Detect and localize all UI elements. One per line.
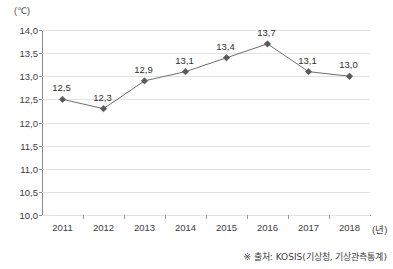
data-point-label: 13,4	[216, 41, 235, 52]
x-axis-tick-mark	[124, 215, 125, 219]
y-axis-unit-label: (℃)	[14, 6, 30, 16]
x-axis-tick-label: 2013	[134, 222, 155, 233]
x-axis-tick-mark	[247, 215, 248, 219]
x-axis-tick-mark	[83, 215, 84, 219]
data-point-label: 13,7	[257, 27, 276, 38]
y-axis-tick-labels: 14,013,513,012,512,011,511,010,510,0	[0, 30, 38, 215]
x-axis-tick-mark	[288, 215, 289, 219]
x-axis-tick-label: 2011	[52, 222, 72, 233]
y-axis-tick-mark	[39, 30, 42, 31]
y-axis-tick-mark	[39, 215, 42, 216]
y-axis-tick-label: 11,0	[20, 163, 38, 174]
y-axis-tick-label: 13,0	[20, 71, 39, 82]
data-point-label: 12,5	[52, 82, 71, 93]
y-axis-tick-label: 11,5	[20, 140, 38, 151]
plot-area	[42, 30, 370, 215]
y-axis-tick-label: 14,0	[20, 25, 39, 36]
y-axis-tick-mark	[39, 76, 42, 77]
gridline	[42, 53, 370, 54]
gridline	[42, 30, 370, 31]
data-point-label: 13,0	[339, 59, 358, 70]
data-point-label: 13,1	[175, 55, 194, 66]
y-axis-tick-mark	[39, 192, 42, 193]
data-point-label: 12,3	[93, 92, 112, 103]
gridline	[42, 169, 370, 170]
y-axis-tick-label: 10,0	[20, 210, 39, 221]
x-axis-tick-mark	[329, 215, 330, 219]
source-note: ※ 출처: KOSIS(기상청, 기상관측통계)	[243, 250, 387, 263]
x-axis-tick-mark	[165, 215, 166, 219]
y-axis-tick-label: 12,0	[20, 117, 39, 128]
gridline	[42, 76, 370, 77]
data-point-label: 13,1	[298, 55, 317, 66]
x-axis-tick-mark	[206, 215, 207, 219]
gridline	[42, 99, 370, 100]
y-axis-tick-mark	[39, 123, 42, 124]
x-axis-unit-label: (년)	[372, 222, 387, 236]
data-point-label: 12,9	[134, 64, 153, 75]
y-axis-tick-label: 10,5	[20, 186, 39, 197]
x-axis-tick-label: 2018	[339, 222, 360, 233]
gridline	[42, 192, 370, 193]
x-axis-tick-label: 2014	[175, 222, 196, 233]
x-axis-tick-label: 2016	[257, 222, 278, 233]
x-axis-tick-label: 2017	[298, 222, 319, 233]
gridline	[42, 123, 370, 124]
x-axis-tick-label: 2012	[93, 222, 114, 233]
y-axis-tick-mark	[39, 169, 42, 170]
y-axis-tick-mark	[39, 146, 42, 147]
gridline	[42, 146, 370, 147]
y-axis-tick-mark	[39, 53, 42, 54]
x-axis-tick-label: 2015	[216, 222, 237, 233]
y-axis-tick-label: 13,5	[20, 48, 39, 59]
y-axis-tick-label: 12,5	[20, 94, 39, 105]
y-axis-tick-mark	[39, 99, 42, 100]
